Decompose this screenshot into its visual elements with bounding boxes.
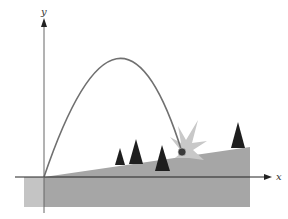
ball-icon (178, 148, 186, 156)
impact-burst-icon (170, 120, 207, 160)
tree-icon (115, 148, 125, 165)
tree-icon (155, 145, 170, 171)
tree-icon (231, 122, 245, 148)
y-axis-label: y (40, 6, 47, 17)
y-axis-arrow-icon (41, 18, 47, 27)
x-axis-arrow-icon (264, 174, 272, 180)
x-axis-label: x (276, 171, 282, 182)
tree-icon (129, 139, 143, 164)
ground-left-region (24, 177, 44, 207)
projectile-diagram: x y (0, 0, 288, 219)
